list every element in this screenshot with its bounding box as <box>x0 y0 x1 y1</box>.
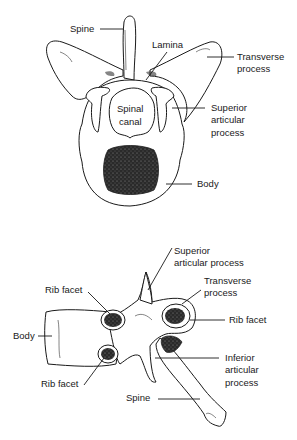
label-lamina: Lamina <box>152 39 184 50</box>
label-body-side: Body <box>13 330 35 341</box>
label-spine-top: Spine <box>70 23 94 34</box>
label-inferior-articular-line1: Inferior <box>225 352 255 363</box>
rib-facet-upper-left <box>104 313 122 327</box>
inferior-articular-facet <box>161 336 182 353</box>
label-superior-articular-line2: articular <box>211 114 245 125</box>
label-transverse-process-line2: process <box>237 63 271 74</box>
spinous-process-shape <box>123 16 136 80</box>
body-shaded-surface <box>104 146 159 195</box>
vertebra-diagram: Spine Lamina Transverse process Spinal c… <box>0 0 297 440</box>
label-body-top: Body <box>197 178 219 189</box>
rib-facet-right <box>165 308 185 324</box>
label-spine-side: Spine <box>126 392 150 403</box>
label-superior-articular-side-line2: articular process <box>174 257 244 268</box>
label-superior-articular-side-line1: Superior <box>174 245 210 256</box>
label-inferior-articular-line3: process <box>225 377 259 388</box>
label-rib-facet-right: Rib facet <box>229 314 267 325</box>
label-superior-articular-line3: process <box>211 127 245 138</box>
label-inferior-articular-line2: articular <box>225 364 259 375</box>
label-spinal-canal-line1: Spinal <box>117 103 143 114</box>
rib-facet-lower-left <box>101 348 115 360</box>
label-transverse-process-side-line2: process <box>204 287 238 298</box>
label-rib-facet-lower-left: Rib facet <box>41 378 79 389</box>
label-transverse-process-side-line1: Transverse <box>204 275 251 286</box>
label-superior-articular-line1: Superior <box>211 102 247 113</box>
lateral-view-drawing <box>45 272 226 426</box>
label-rib-facet-upper-left: Rib facet <box>45 284 83 295</box>
cropped-caption-strip <box>14 432 284 438</box>
label-spinal-canal-line2: canal <box>119 116 142 127</box>
label-transverse-process-line1: Transverse <box>237 51 284 62</box>
